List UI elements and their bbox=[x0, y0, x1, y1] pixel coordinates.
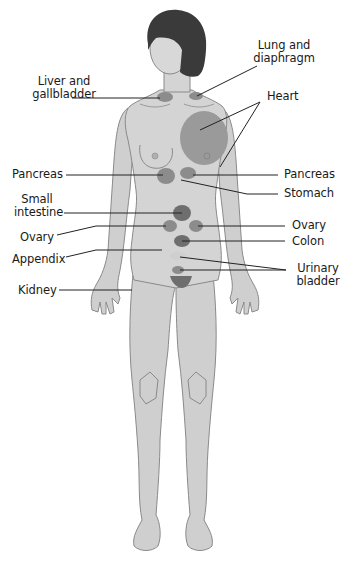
right-leg bbox=[176, 265, 216, 551]
label-pancreas-left: Pancreas bbox=[12, 168, 72, 181]
label-ovary-left: Ovary bbox=[20, 231, 60, 244]
nipple-left bbox=[152, 153, 158, 159]
head bbox=[147, 10, 206, 77]
figure-caption-cutoff bbox=[0, 560, 346, 568]
appendix-zone bbox=[170, 252, 186, 260]
leader-line-lung-diaphragm bbox=[197, 66, 257, 96]
label-ovary-right: Ovary bbox=[292, 219, 332, 232]
left-leg bbox=[130, 265, 176, 551]
pancreas-left-zone bbox=[157, 168, 175, 184]
nipple-right bbox=[204, 153, 210, 159]
pancreas-right-zone bbox=[180, 167, 196, 179]
referred-pain-diagram: Liver and gallbladder Lung and diaphragm… bbox=[0, 0, 346, 568]
liver-gallbladder-zone bbox=[157, 92, 173, 102]
label-kidney: Kidney bbox=[18, 284, 68, 297]
label-lung-diaphragm: Lung and diaphragm bbox=[252, 39, 316, 65]
label-small-intestine: Small intestine bbox=[14, 193, 60, 219]
label-pancreas-right: Pancreas bbox=[284, 168, 344, 181]
lung-diaphragm-zone bbox=[189, 92, 203, 100]
label-urinary-bladder: Urinary bladder bbox=[296, 262, 340, 288]
label-stomach: Stomach bbox=[284, 187, 344, 200]
label-heart: Heart bbox=[267, 90, 307, 103]
label-colon: Colon bbox=[292, 235, 332, 248]
label-appendix: Appendix bbox=[12, 253, 72, 266]
legs bbox=[130, 265, 216, 551]
label-liver-gallbladder: Liver and gallbladder bbox=[32, 75, 96, 101]
